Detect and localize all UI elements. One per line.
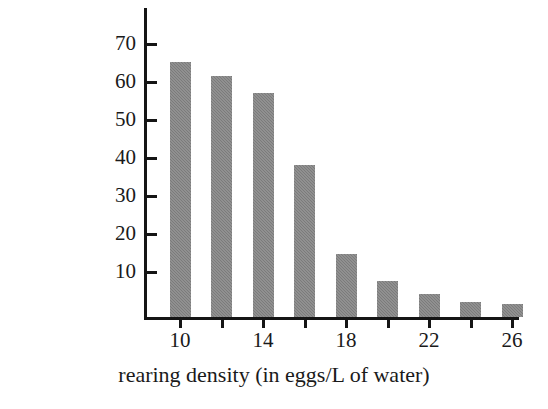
y-tick-label-20: 20 [98,223,136,244]
bar-chart: percent survival at 4 weeks 70 60 50 40 … [0,0,548,409]
x-tick-label-14: 14 [233,330,293,351]
x-tick-12 [221,320,224,328]
x-tick-14 [262,320,265,328]
y-tick-label-60: 60 [98,71,136,92]
bar-20 [377,281,398,317]
x-tick-26 [511,320,514,328]
x-tick-label-22: 22 [399,330,459,351]
x-tick-16 [304,320,307,328]
y-tick-10 [147,271,157,274]
y-tick-label-40: 40 [98,147,136,168]
x-tick-10 [179,320,182,328]
bar-16 [294,165,315,317]
x-tick-22 [428,320,431,328]
bar-22 [419,294,440,317]
x-tick-label-18: 18 [316,330,376,351]
x-tick-label-10: 10 [150,330,210,351]
y-tick-30 [147,195,157,198]
y-tick-60 [147,81,157,84]
y-tick-70 [147,43,157,46]
y-tick-50 [147,119,157,122]
y-axis-title: percent survival at 4 weeks [0,0,100,320]
bar-12 [211,76,232,317]
x-tick-20 [387,320,390,328]
x-axis-title: rearing density (in eggs/L of water) [0,364,548,386]
bar-14 [253,93,274,317]
x-tick-18 [345,320,348,328]
bar-24 [460,302,481,317]
y-tick-label-50: 50 [98,109,136,130]
y-tick-40 [147,157,157,160]
x-tick-24 [470,320,473,328]
y-axis-title-line-2: at 4 weeks [0,0,75,250]
y-tick-label-30: 30 [98,185,136,206]
bar-26 [502,304,523,317]
x-tick-label-26: 26 [482,330,542,351]
x-axis-line [144,317,519,320]
y-tick-label-70: 70 [98,33,136,54]
y-tick-20 [147,233,157,236]
bar-18 [336,254,357,317]
bar-10 [170,62,191,317]
y-tick-label-10: 10 [98,261,136,282]
y-axis-title-line-1: percent survival [0,0,44,250]
